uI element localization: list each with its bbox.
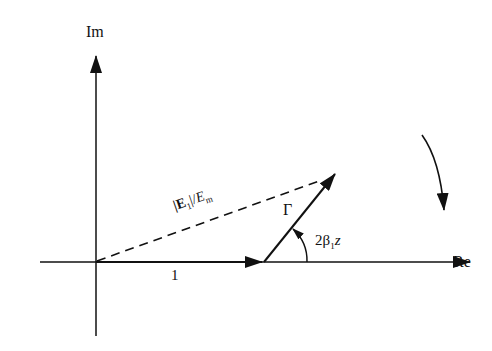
clockwise-rotation-arrow-icon	[422, 135, 444, 210]
re-axis-label: Re	[453, 254, 471, 270]
angle-label: 2β1z	[315, 233, 340, 251]
angle-arc-icon	[293, 229, 307, 262]
diagram-graphics	[0, 0, 492, 351]
unit-label: 1	[171, 268, 179, 283]
angle-label-z: z	[335, 232, 341, 248]
im-axis-label: Im	[86, 24, 104, 40]
gamma-label: Γ	[283, 202, 292, 218]
phasor-diagram: Im Re 1 Γ |E1|/Em 2β1z	[0, 0, 492, 351]
angle-label-prefix: 2β	[315, 232, 330, 248]
